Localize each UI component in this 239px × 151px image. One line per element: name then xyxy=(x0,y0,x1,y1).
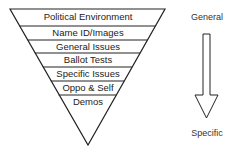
layer-ballot-tests: Ballot Tests xyxy=(64,54,112,66)
layer-name-id-images: Name ID/Images xyxy=(52,27,123,39)
layer-general-issues: General Issues xyxy=(56,41,120,53)
layer-demos: Demos xyxy=(73,96,103,108)
label-general: General xyxy=(191,12,223,23)
layer-specific-issues: Specific Issues xyxy=(56,68,119,80)
layer-political-environment: Political Environment xyxy=(44,11,133,23)
label-specific: Specific xyxy=(191,128,223,139)
down-arrow xyxy=(195,34,218,118)
layer-oppo-self: Oppo & Self xyxy=(62,82,113,94)
